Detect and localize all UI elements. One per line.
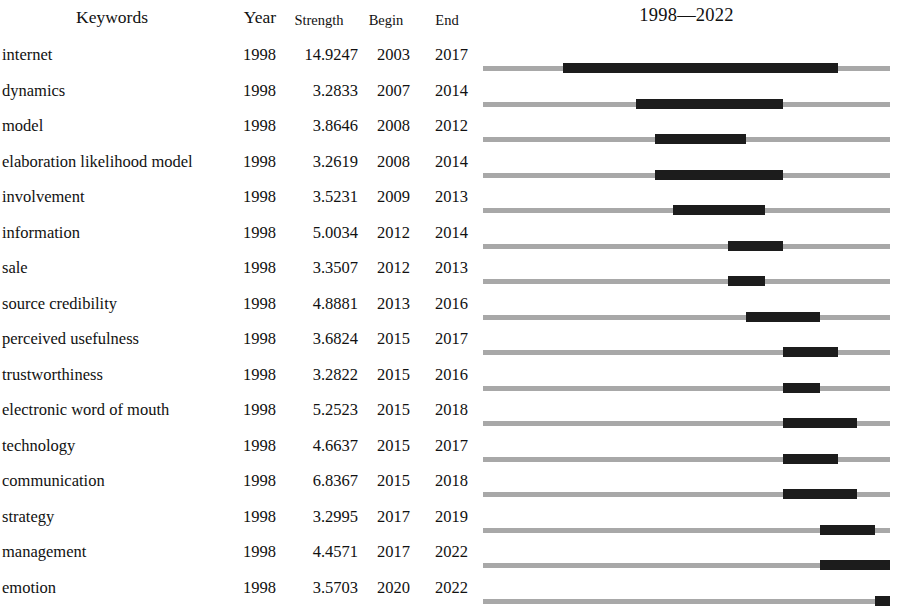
cell-begin: 2003 — [362, 45, 410, 65]
burst-bar — [728, 276, 765, 286]
cell-year: 1998 — [228, 116, 276, 136]
cell-keyword: source credibility — [2, 294, 117, 314]
burst-bar — [783, 383, 820, 393]
cell-begin: 2015 — [362, 400, 410, 420]
burst-bar — [746, 312, 819, 322]
cell-keyword: dynamics — [2, 81, 65, 101]
cell-begin: 2008 — [362, 152, 410, 172]
cell-year: 1998 — [228, 542, 276, 562]
cell-begin: 2007 — [362, 81, 410, 101]
cell-year: 1998 — [228, 507, 276, 527]
cell-strength: 3.2995 — [280, 507, 358, 527]
cell-strength: 4.8881 — [280, 294, 358, 314]
cell-end: 2018 — [418, 471, 468, 491]
cell-end: 2016 — [418, 365, 468, 385]
cell-begin: 2012 — [362, 223, 410, 243]
cell-keyword: technology — [2, 436, 75, 456]
cell-begin: 2009 — [362, 187, 410, 207]
cell-keyword: internet — [2, 45, 52, 65]
timeline-track — [483, 244, 890, 249]
burst-bar — [783, 454, 838, 464]
timeline-track — [483, 599, 890, 604]
burst-bar — [820, 525, 875, 535]
cell-year: 1998 — [228, 258, 276, 278]
table-row: information19985.003420122014 — [0, 220, 900, 256]
cell-year: 1998 — [228, 45, 276, 65]
cell-begin: 2017 — [362, 542, 410, 562]
column-header-begin: Begin — [360, 9, 412, 31]
table-row: technology19984.663720152017 — [0, 433, 900, 469]
burst-bar — [820, 560, 890, 570]
table-row: management19984.457120172022 — [0, 539, 900, 575]
cell-keyword: model — [2, 116, 43, 136]
cell-end: 2017 — [418, 329, 468, 349]
burst-bar — [783, 418, 856, 428]
cell-strength: 4.4571 — [280, 542, 358, 562]
cell-begin: 2008 — [362, 116, 410, 136]
cell-begin: 2012 — [362, 258, 410, 278]
burst-bar — [655, 134, 747, 144]
burst-bar — [783, 489, 856, 499]
column-header-end: End — [420, 9, 474, 31]
cell-strength: 3.8646 — [280, 116, 358, 136]
burst-bar — [563, 63, 838, 73]
cell-keyword: perceived usefulness — [2, 329, 139, 349]
cell-begin: 2015 — [362, 329, 410, 349]
cell-year: 1998 — [228, 294, 276, 314]
cell-strength: 3.5231 — [280, 187, 358, 207]
burst-bar — [875, 596, 890, 606]
cell-year: 1998 — [228, 400, 276, 420]
cell-keyword: management — [2, 542, 86, 562]
cell-begin: 2015 — [362, 436, 410, 456]
burst-bar — [673, 205, 765, 215]
burst-bar — [636, 99, 783, 109]
cell-end: 2016 — [418, 294, 468, 314]
cell-strength: 3.3507 — [280, 258, 358, 278]
cell-end: 2012 — [418, 116, 468, 136]
cell-end: 2017 — [418, 436, 468, 456]
cell-end: 2014 — [418, 81, 468, 101]
cell-keyword: communication — [2, 471, 105, 491]
column-header-keywords: Keywords — [0, 6, 224, 28]
table-row: sale19983.350720122013 — [0, 255, 900, 291]
table-row: communication19986.836720152018 — [0, 468, 900, 504]
cell-strength: 5.0034 — [280, 223, 358, 243]
cell-year: 1998 — [228, 223, 276, 243]
cell-strength: 4.6637 — [280, 436, 358, 456]
cell-end: 2022 — [418, 578, 468, 598]
cell-keyword: elaboration likelihood model — [2, 152, 193, 172]
cell-keyword: trustworthiness — [2, 365, 103, 385]
burst-bar — [783, 347, 838, 357]
cell-begin: 2020 — [362, 578, 410, 598]
timeline-track — [483, 386, 890, 391]
timeline-range-label: 1998—2022 — [483, 4, 890, 26]
table-row: dynamics19983.283320072014 — [0, 78, 900, 114]
burst-bar — [655, 170, 784, 180]
cell-year: 1998 — [228, 187, 276, 207]
cell-year: 1998 — [228, 81, 276, 101]
cell-year: 1998 — [228, 365, 276, 385]
cell-end: 2014 — [418, 152, 468, 172]
cell-strength: 3.5703 — [280, 578, 358, 598]
cell-end: 2014 — [418, 223, 468, 243]
cell-strength: 3.2619 — [280, 152, 358, 172]
cell-year: 1998 — [228, 471, 276, 491]
timeline-track — [483, 315, 890, 320]
cell-year: 1998 — [228, 329, 276, 349]
cell-year: 1998 — [228, 578, 276, 598]
cell-year: 1998 — [228, 152, 276, 172]
cell-strength: 3.2833 — [280, 81, 358, 101]
cell-end: 2022 — [418, 542, 468, 562]
cell-keyword: involvement — [2, 187, 84, 207]
cell-end: 2018 — [418, 400, 468, 420]
burst-bar — [728, 241, 783, 251]
cell-strength: 6.8367 — [280, 471, 358, 491]
table-row: strategy19983.299520172019 — [0, 504, 900, 540]
cell-strength: 3.2822 — [280, 365, 358, 385]
table-row: electronic word of mouth19985.2523201520… — [0, 397, 900, 433]
cell-strength: 3.6824 — [280, 329, 358, 349]
table-row: elaboration likelihood model19983.261920… — [0, 149, 900, 185]
table-header: Keywords Year Strength Begin End 1998—20… — [0, 0, 900, 36]
column-header-year: Year — [228, 6, 276, 28]
